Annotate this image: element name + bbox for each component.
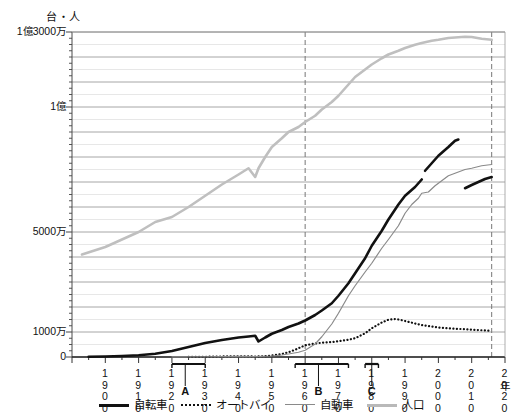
series-line-自転車: [465, 177, 492, 188]
x-axis-unit-label: 年: [500, 378, 510, 393]
y-tick-label: 1000万: [33, 326, 66, 337]
dotted-black-line-icon: [181, 399, 211, 409]
legend-item-自転車[interactable]: 自転車: [99, 396, 167, 412]
y-tick-label: 5000万: [33, 226, 66, 237]
thick-light-gray-line-icon: [367, 399, 397, 409]
y-axis-ticks: [66, 32, 72, 357]
legend-item-オートバイ[interactable]: オートバイ: [181, 396, 271, 412]
thick-black-line-icon: [99, 399, 129, 409]
series-line-自転車: [89, 180, 422, 357]
chart-container: 台・人 01000万5000万1億1億3000万 190019101920193…: [0, 0, 522, 418]
y-tick-label: 0: [60, 351, 66, 362]
legend-item-label: 自動車: [320, 396, 353, 412]
y-tick-label: 1億: [50, 101, 66, 112]
legend-item-人口[interactable]: 人口: [367, 396, 424, 412]
chart-legend: 自転車オートバイ自動車人口: [0, 396, 522, 412]
data-series-group: [82, 37, 492, 357]
gridlines: [72, 32, 505, 357]
chart-plot-svg: [0, 0, 522, 418]
thin-gray-line-icon: [285, 399, 315, 409]
legend-item-label: 人口: [402, 396, 424, 412]
legend-item-自動車[interactable]: 自動車: [285, 396, 353, 412]
legend-item-label: 自転車: [134, 396, 167, 412]
legend-item-label: オートバイ: [216, 396, 271, 412]
y-tick-label: 1億3000万: [17, 26, 66, 37]
x-axis-ticks: [72, 357, 505, 363]
